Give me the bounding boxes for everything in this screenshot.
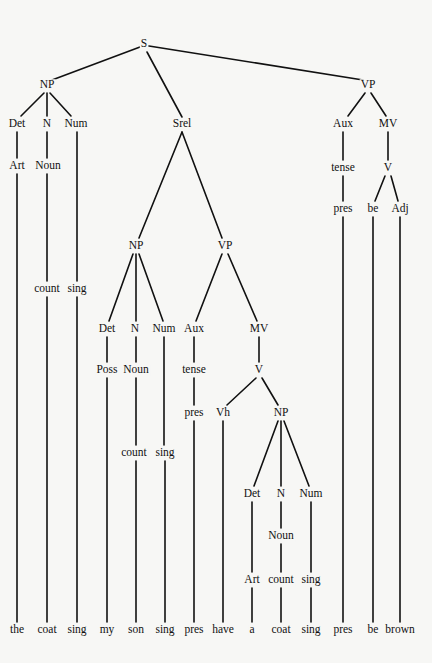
leaf-word: sing [300,624,321,636]
tree-node-count1: count [33,283,61,295]
tree-node-det3: Det [243,488,262,500]
tree-edge [147,52,182,117]
leaf-word: my [99,624,116,636]
tree-node-mv1: MV [378,118,399,130]
tree-node-vp1: VP [360,79,377,91]
leaf-word: sing [154,624,175,636]
tree-node-vh: Vh [215,407,231,419]
tree-node-aux1: Aux [332,118,354,130]
tree-node-art1: Art [8,160,25,172]
tree-node-vp2: VP [217,240,234,252]
tree-node-tense1: tense [330,162,356,174]
tree-node-sing2: sing [154,447,175,459]
tree-edge [182,132,222,238]
tree-node-num3: Num [299,488,324,500]
tree-edge [228,254,257,321]
tree-edge [196,254,222,321]
tree-edge [52,47,140,80]
tree-edge [254,421,278,486]
tree-edge [348,93,365,116]
tree-node-pres2: pres [183,407,204,419]
tree-node-art3: Art [243,574,260,586]
tree-node-aux2: Aux [183,323,205,335]
tree-node-det1: Det [8,118,27,130]
tree-node-v2: V [254,364,264,376]
leaf-word: have [211,624,235,636]
tree-node-sing3: sing [300,574,321,586]
tree-edge [149,46,363,80]
tree-edge [109,254,133,321]
tree-edge [371,93,386,116]
leaf-word: be [367,624,380,636]
leaf-word: brown [384,624,415,636]
leaf-word: coat [36,624,57,636]
tree-node-be1: be [367,203,380,215]
tree-edge [139,132,182,238]
leaf-word: a [248,624,255,636]
leaf-word: son [127,624,145,636]
tree-node-np1: NP [39,79,56,91]
tree-node-pres1: pres [332,203,353,215]
tree-edge [284,421,309,486]
tree-node-adj: Adj [390,203,409,215]
tree-node-noun1: Noun [34,160,62,172]
leaf-word: coat [270,624,291,636]
tree-edge [262,378,278,405]
tree-node-noun2: Noun [122,364,150,376]
tree-edge [227,378,256,405]
tree-node-count2: count [120,447,148,459]
tree-edge [375,176,385,201]
tree-node-v1: V [383,162,393,174]
tree-node-det2: Det [98,323,117,335]
leaf-word: pres [332,624,353,636]
tree-node-num2: Num [152,323,177,335]
tree-node-mv2: MV [249,323,270,335]
tree-edge [391,176,398,201]
tree-node-num1: Num [64,118,89,130]
tree-edge [139,254,163,321]
tree-node-n2: N [130,323,140,335]
tree-edge [21,93,44,116]
syntax-tree-diagram: SNPDetNNumArtNouncountsingSrelNPDetNNumP… [0,0,432,663]
tree-edges [0,0,432,663]
tree-node-noun3: Noun [267,530,295,542]
tree-node-poss: Poss [95,364,118,376]
tree-node-n1: N [42,118,52,130]
tree-node-count3: count [267,574,295,586]
leaf-word: pres [183,624,204,636]
tree-node-np2: NP [128,240,145,252]
tree-node-tense2: tense [181,364,207,376]
tree-edge [50,93,71,116]
leaf-word: the [9,624,25,636]
tree-node-s: S [140,38,148,50]
tree-node-n3: N [276,488,286,500]
tree-node-np3: NP [273,407,290,419]
tree-node-srel: Srel [172,118,193,130]
tree-node-sing1: sing [66,283,87,295]
leaf-word: sing [66,624,87,636]
